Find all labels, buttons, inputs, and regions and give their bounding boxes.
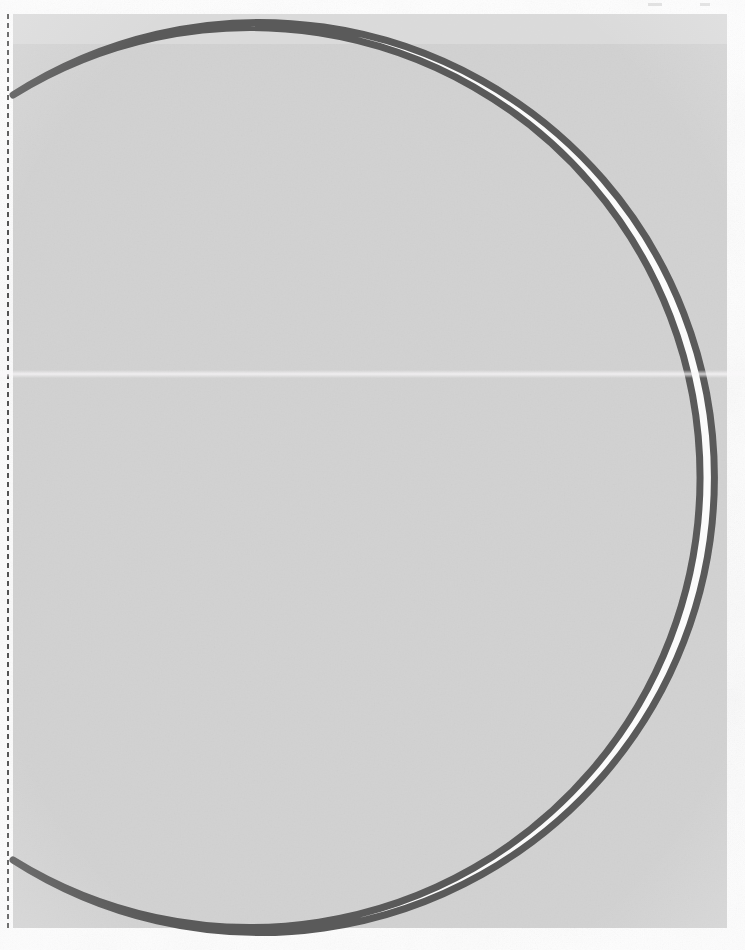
scanned-page: Crescent (lune) figure	[0, 0, 745, 950]
shaded-region-group	[13, 14, 727, 928]
registration-tick	[700, 3, 710, 6]
shaded-rectangle-grain	[13, 14, 727, 928]
top-edge-scan-marks	[648, 3, 710, 6]
registration-tick	[648, 3, 662, 6]
geometry-figure	[0, 0, 745, 950]
